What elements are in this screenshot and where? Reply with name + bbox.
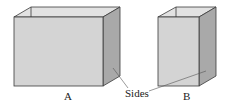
box-a-front-face <box>14 17 103 86</box>
box-a-inner-back <box>14 7 120 17</box>
box-a-label: A <box>64 90 72 102</box>
box-b-side-face <box>199 7 216 86</box>
box-diagram: A B Sides <box>0 0 227 107</box>
box-b <box>158 7 216 86</box>
box-b-label: B <box>183 90 190 102</box>
sides-label: Sides <box>125 87 149 99</box>
box-a <box>14 7 120 86</box>
